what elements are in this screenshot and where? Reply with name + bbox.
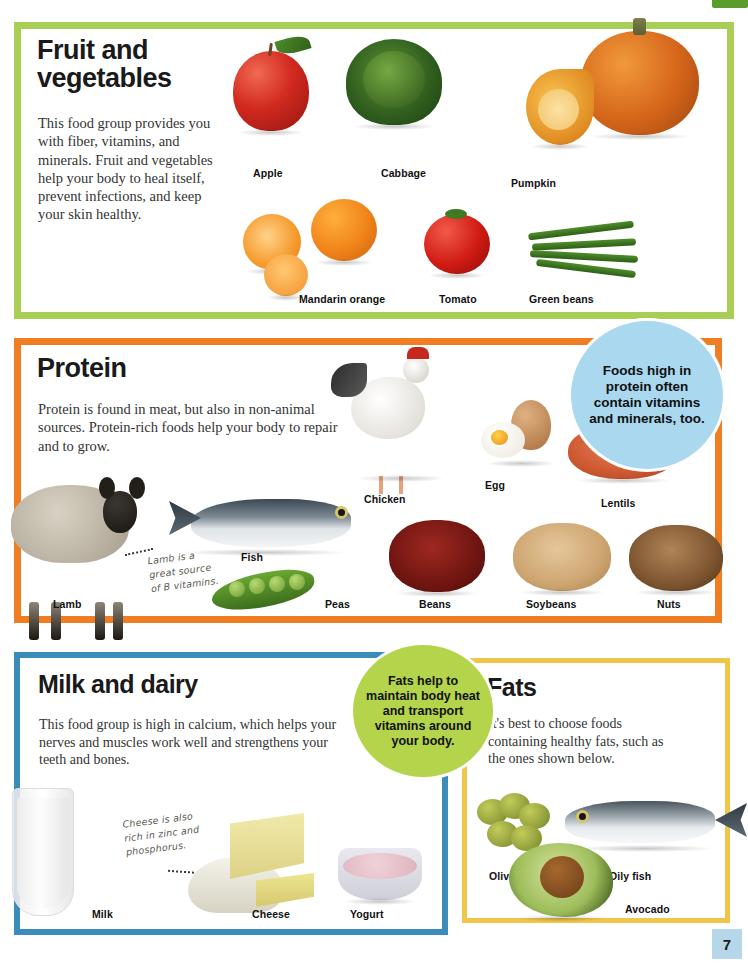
fats-body: It's best to choose foods containing hea… (488, 715, 666, 768)
label-fish: Fish (241, 551, 263, 563)
egg-image (481, 400, 561, 462)
pumpkin-slice-image (526, 69, 594, 145)
label-oily-fish: Oily fish (609, 870, 651, 882)
lamb-image (11, 485, 161, 605)
section-fats: Fats It's best to choose foods containin… (462, 658, 730, 923)
label-tomato: Tomato (439, 293, 477, 305)
label-pumpkin: Pumpkin (511, 177, 556, 189)
label-peas: Peas (325, 598, 350, 610)
label-lentils: Lentils (601, 497, 636, 509)
avocado-image (509, 843, 613, 917)
mandarin-whole-image (311, 199, 377, 261)
yogurt-image (338, 848, 422, 900)
protein-bubble-text: Foods high in protein often contain vita… (571, 363, 723, 428)
label-apple: Apple (253, 167, 283, 179)
label-cabbage: Cabbage (381, 167, 426, 179)
fats-bubble: Fats help to maintain body heat and tran… (353, 645, 493, 777)
page-number: 7 (712, 929, 742, 959)
protein-body: Protein is found in meat, but also in no… (38, 400, 358, 455)
label-green-beans: Green beans (529, 293, 594, 305)
milk-dairy-title: Milk and dairy (38, 672, 198, 698)
green-beans-image (526, 221, 646, 283)
chicken-image (351, 377, 451, 477)
page-number-value: 7 (723, 936, 731, 953)
fish-image (169, 495, 359, 551)
pumpkin-image (581, 31, 699, 135)
spread-page: Fruit and vegetables This food group pro… (0, 0, 748, 965)
beans-image (389, 520, 485, 592)
protein-title: Protein (37, 355, 127, 383)
apple-image (233, 51, 309, 131)
peas-image (211, 567, 341, 613)
fats-bubble-text: Fats help to maintain body heat and tran… (353, 674, 493, 749)
label-beans: Beans (419, 598, 451, 610)
label-avocado: Avocado (625, 903, 670, 915)
top-green-tab (712, 0, 748, 8)
cabbage-image (346, 39, 442, 125)
label-lamb: Lamb (53, 598, 81, 610)
label-mandarin-orange: Mandarin orange (299, 293, 385, 305)
nuts-image (629, 525, 723, 591)
label-chicken: Chicken (364, 493, 406, 505)
fruit-vegetables-body: This food group provides you with fiber,… (38, 114, 221, 224)
oily-fish-image (565, 799, 725, 847)
label-nuts: Nuts (657, 598, 681, 610)
label-egg: Egg (485, 479, 505, 491)
fats-title: Fats (487, 675, 536, 701)
milk-dairy-body: This food group is high in calcium, whic… (39, 716, 339, 769)
label-cheese: Cheese (252, 908, 290, 920)
milk-image (12, 788, 74, 916)
mandarin-segment-image (264, 254, 308, 296)
section-fruit-vegetables: Fruit and vegetables This food group pro… (14, 22, 734, 319)
protein-bubble: Foods high in protein often contain vita… (571, 321, 723, 469)
label-milk: Milk (92, 908, 113, 920)
soybeans-image (513, 523, 611, 591)
label-soybeans: Soybeans (526, 598, 576, 610)
fruit-vegetables-title: Fruit and vegetables (37, 37, 222, 92)
tomato-image (424, 214, 490, 274)
label-yogurt: Yogurt (350, 908, 384, 920)
